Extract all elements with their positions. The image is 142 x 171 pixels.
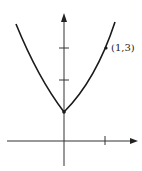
point-marker <box>104 46 107 49</box>
y-axis-arrow-icon <box>61 13 67 22</box>
graph: (1,3) <box>0 0 142 171</box>
curve-right-branch <box>64 22 115 112</box>
cusp-point <box>62 110 66 114</box>
point-label: (1,3) <box>111 42 135 53</box>
x-axis-arrow-icon <box>130 138 138 144</box>
curve-left-branch <box>16 24 64 112</box>
